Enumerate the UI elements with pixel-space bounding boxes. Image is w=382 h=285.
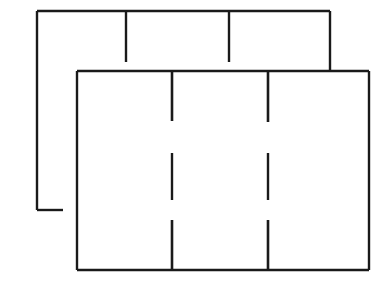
- drawing-background: [0, 0, 382, 285]
- floor-plan-drawing: [0, 0, 382, 285]
- floor-plan-canvas: [0, 0, 382, 285]
